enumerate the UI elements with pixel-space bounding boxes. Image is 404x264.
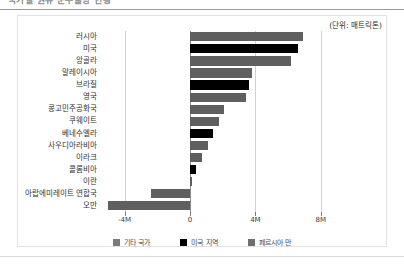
y-axis-label: 미국 — [18, 43, 97, 55]
legend-label: 기타 국가 — [124, 237, 150, 247]
legend-swatch-icon — [248, 239, 255, 246]
bar-row — [100, 115, 329, 127]
bar-row — [100, 31, 329, 43]
plot-area — [100, 31, 329, 212]
x-tick-label: 4M — [250, 216, 261, 224]
y-axis-label: 콜롬비아 — [18, 164, 97, 176]
y-axis-label: 쿠웨이트 — [18, 115, 97, 127]
y-axis-label: 이란 — [18, 176, 97, 188]
y-axis-label: 러시아 — [18, 31, 97, 43]
bar-rows — [100, 31, 329, 212]
legend-swatch-icon — [113, 239, 120, 246]
y-axis-label: 브라질 — [18, 79, 97, 91]
bottom-divider — [0, 256, 404, 257]
bar — [190, 177, 192, 186]
legend-item[interactable]: 기타 국가 — [113, 237, 150, 247]
bar — [190, 56, 291, 65]
y-axis-label: 아랍에미레이트 연합국 — [18, 188, 97, 200]
legend-swatch-icon — [180, 239, 187, 246]
bar — [190, 141, 208, 150]
bar-row — [100, 164, 329, 176]
bar — [151, 189, 190, 198]
legend-label: 페르시아 만 — [259, 237, 291, 247]
y-axis-labels: 러시아미국앙골라말레이시아브라질영국콩고민주공화국쿠웨이트베네수엘라사우디아라비… — [18, 31, 97, 212]
x-tick-label: -4M — [118, 216, 131, 224]
bar — [190, 129, 213, 138]
y-axis-label: 오만 — [18, 200, 97, 212]
x-axis-labels: -4M04M8M — [60, 216, 380, 226]
bar-row — [100, 43, 329, 55]
bar-row — [100, 176, 329, 188]
legend-item[interactable]: 미국 지역 — [180, 237, 217, 247]
bar — [190, 44, 298, 53]
bar — [190, 105, 224, 114]
bar-row — [100, 140, 329, 152]
bar — [190, 32, 303, 41]
bar-row — [100, 152, 329, 164]
bar — [190, 80, 249, 89]
legend-label: 미국 지역 — [191, 237, 217, 247]
y-axis-label: 영국 — [18, 91, 97, 103]
y-axis-label: 앙골라 — [18, 55, 97, 67]
bar-row — [100, 91, 329, 103]
page-title: 국가별 원유 순수출량 현황 — [8, 0, 111, 6]
page-title-strip: 국가별 원유 순수출량 현황 — [0, 0, 404, 9]
bar — [108, 201, 190, 210]
bar-row — [100, 79, 329, 91]
y-axis-label: 베네수엘라 — [18, 128, 97, 140]
title-divider — [0, 9, 404, 10]
y-axis-label: 사우디아라비아 — [18, 140, 97, 152]
bar-row — [100, 188, 329, 200]
bar-row — [100, 67, 329, 79]
x-tick-label: 8M — [316, 216, 327, 224]
bar — [190, 153, 202, 162]
bar-row — [100, 103, 329, 115]
chart-page: 국가별 원유 순수출량 현황 (단위: 매트릭톤) 러시아미국앙골라말레이시아브… — [0, 0, 404, 264]
unit-label: (단위: 매트릭톤) — [329, 19, 382, 30]
bar — [190, 68, 252, 77]
y-axis-label: 콩고민주공화국 — [18, 103, 97, 115]
bar-row — [100, 128, 329, 140]
y-axis-label: 말레이시아 — [18, 67, 97, 79]
chart-legend: 기타 국가미국 지역페르시아 만 — [17, 236, 387, 248]
bar — [190, 117, 219, 126]
bar-row — [100, 55, 329, 67]
y-axis-label: 이라크 — [18, 152, 97, 164]
bar — [190, 93, 246, 102]
x-tick-label: 0 — [188, 216, 192, 224]
bar — [190, 165, 197, 174]
bar-row — [100, 200, 329, 212]
legend-item[interactable]: 페르시아 만 — [248, 237, 291, 247]
